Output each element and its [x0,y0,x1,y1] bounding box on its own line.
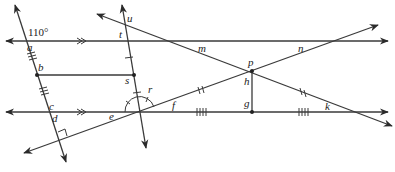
geometry-diagram: 110° a b c d e f g h k m n p r s t u [0,0,395,172]
single-tick-ts [125,57,133,58]
angle-arc-left [125,97,136,112]
descending-line-u-k [97,14,392,126]
label-f: f [172,99,177,111]
label-t: t [119,28,123,40]
label-k: k [325,100,331,112]
label-u: u [127,12,133,24]
label-a: a [27,41,33,53]
single-tick-s-bottom [133,92,141,93]
point-s [132,73,136,77]
label-g: g [244,97,250,109]
label-b: b [38,61,44,73]
label-p: p [247,56,254,68]
label-n: n [298,42,304,54]
label-m: m [198,42,206,54]
label-s: s [125,74,129,86]
triple-tick-ab [27,52,37,60]
label-r: r [148,83,153,95]
label-c: c [49,100,54,112]
label-h: h [244,75,250,87]
angle-110-label: 110° [28,26,49,38]
double-tick-e-p [198,86,204,94]
label-e: e [109,110,114,122]
triple-tick-bc [39,87,49,95]
point-b [35,73,39,77]
point-p [250,69,254,73]
right-angle-mark [58,129,67,136]
label-d: d [52,112,58,124]
point-g [250,110,254,114]
